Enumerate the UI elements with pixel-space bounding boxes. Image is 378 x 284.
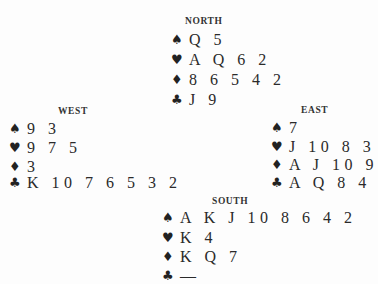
south-diamonds-row: ♦K Q 7 [162, 247, 242, 267]
spade-icon: ♠ [9, 119, 27, 139]
east-spades-row: ♠7 [271, 118, 302, 138]
seat-label-north: NORTH [185, 16, 223, 26]
heart-icon: ♥ [171, 50, 189, 70]
seat-label-west: WEST [58, 106, 88, 116]
heart-icon: ♥ [9, 138, 27, 158]
west-spades-row: ♠9 3 [9, 119, 61, 139]
west-clubs-cards: K 10 7 6 5 3 2 [27, 174, 182, 191]
hand-east: EAST ♠7 ♥J 10 8 3 ♦A J 10 9 ♣A Q 8 4 [271, 105, 357, 195]
south-clubs-row: ♣— [162, 266, 201, 284]
diamond-icon: ♦ [171, 70, 189, 90]
club-icon: ♣ [162, 266, 180, 284]
heart-icon: ♥ [162, 228, 180, 248]
north-hearts-row: ♥A Q 6 2 [171, 50, 271, 70]
north-diamonds-row: ♦8 6 5 4 2 [171, 70, 286, 90]
north-diamonds-cards: 8 6 5 4 2 [189, 71, 286, 88]
seat-label-east: EAST [301, 105, 328, 115]
east-spades-cards: 7 [289, 119, 302, 136]
east-clubs-row: ♣A Q 8 4 [271, 173, 371, 193]
east-hearts-row: ♥J 10 8 3 [271, 137, 375, 157]
club-icon: ♣ [271, 173, 289, 193]
hand-north: NORTH ♠Q 5 ♥A Q 6 2 ♦8 6 5 4 2 ♣J 9 [171, 16, 291, 116]
diamond-icon: ♦ [162, 247, 180, 267]
west-hearts-row: ♥9 7 5 [9, 138, 82, 158]
north-clubs-cards: J 9 [189, 91, 221, 108]
north-hearts-cards: A Q 6 2 [189, 51, 271, 68]
club-icon: ♣ [9, 173, 27, 193]
east-diamonds-cards: A J 10 9 [289, 156, 378, 173]
west-spades-cards: 9 3 [27, 120, 61, 137]
seat-label-south: SOUTH [212, 196, 248, 206]
west-clubs-row: ♣K 10 7 6 5 3 2 [9, 173, 182, 193]
diamond-icon: ♦ [271, 155, 289, 175]
north-spades-row: ♠Q 5 [171, 30, 226, 50]
south-spades-row: ♠A K J 10 8 6 4 2 [162, 208, 356, 228]
south-diamonds-cards: K Q 7 [180, 248, 242, 265]
east-clubs-cards: A Q 8 4 [289, 174, 371, 191]
spade-icon: ♠ [171, 30, 189, 50]
east-hearts-cards: J 10 8 3 [289, 138, 375, 155]
spade-icon: ♠ [271, 118, 289, 138]
east-diamonds-row: ♦A J 10 9 [271, 155, 378, 175]
hand-west: WEST ♠9 3 ♥9 7 5 ♦3 ♣K 10 7 6 5 3 2 [9, 106, 159, 196]
south-hearts-row: ♥K 4 [162, 228, 217, 248]
south-hearts-cards: K 4 [180, 229, 217, 246]
club-icon: ♣ [171, 90, 189, 110]
west-hearts-cards: 9 7 5 [27, 139, 82, 156]
heart-icon: ♥ [271, 137, 289, 157]
north-spades-cards: Q 5 [189, 31, 226, 48]
south-clubs-cards: — [180, 267, 201, 284]
south-spades-cards: A K J 10 8 6 4 2 [180, 209, 356, 226]
spade-icon: ♠ [162, 208, 180, 228]
hand-south: SOUTH ♠A K J 10 8 6 4 2 ♥K 4 ♦K Q 7 ♣— [162, 196, 332, 284]
north-clubs-row: ♣J 9 [171, 90, 221, 110]
